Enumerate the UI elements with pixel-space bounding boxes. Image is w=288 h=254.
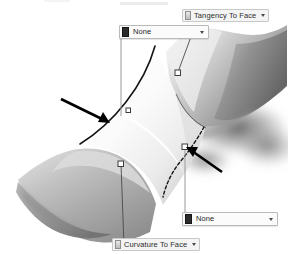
chevron-down-icon[interactable] [261, 14, 265, 17]
handle-lower-left [118, 161, 124, 167]
chevron-down-icon[interactable] [200, 31, 204, 34]
curvature-to-face-callout[interactable]: Curvature To Face [112, 238, 200, 251]
curvature-swatch-icon [122, 27, 129, 37]
top-constraint-value: None [133, 27, 196, 37]
top-constraint-dropdown[interactable]: None [119, 25, 209, 39]
handle-mid-right [182, 144, 188, 150]
curvature-swatch-icon [185, 214, 192, 224]
constraint-swatch-icon [185, 11, 191, 20]
bottom-constraint-dropdown[interactable]: None [182, 212, 278, 226]
handle-upper-right [175, 70, 181, 76]
top-scan-artifact [44, 0, 168, 5]
handle-mid-left [126, 108, 131, 113]
cad-surface-fill-screenshot: Tangency To Face None None Curvature To … [0, 0, 288, 254]
annotation-arrow-left [61, 99, 110, 123]
curvature-to-face-label: Curvature To Face [124, 240, 187, 249]
tangency-to-face-callout[interactable]: Tangency To Face [182, 9, 269, 22]
tangency-to-face-label: Tangency To Face [194, 11, 256, 20]
bottom-constraint-value: None [196, 214, 265, 224]
chevron-down-icon[interactable] [192, 243, 196, 246]
chevron-down-icon[interactable] [269, 218, 273, 221]
constraint-swatch-icon [115, 240, 121, 249]
